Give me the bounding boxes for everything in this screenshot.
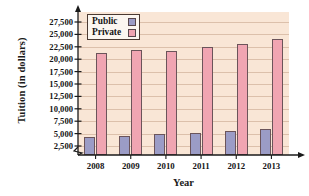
chart-axes [34, 4, 306, 192]
legend-swatch-private [128, 29, 136, 37]
tuition-bar-chart: Tuition (in dollars) 27,50025,00022,5002… [0, 0, 309, 196]
y-axis-title-text: Tuition (in dollars) [16, 37, 27, 123]
y-axis-title: Tuition (in dollars) [8, 0, 34, 160]
legend-label: Public [92, 17, 118, 26]
legend-item-public: Public [92, 16, 136, 27]
plot-area: 27,50025,00022,50020,00017,50015,00012,5… [34, 4, 306, 192]
legend-label: Private [92, 28, 121, 37]
legend-swatch-public [128, 18, 136, 26]
chart-legend: PublicPrivate [87, 14, 140, 40]
legend-item-private: Private [92, 27, 136, 38]
x-axis-title: Year [78, 178, 289, 189]
